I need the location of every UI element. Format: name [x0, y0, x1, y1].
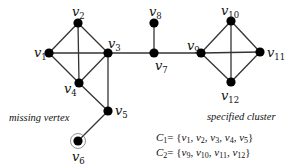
node-v12 [226, 77, 235, 86]
label-v8: v8 [149, 4, 162, 21]
label-v9: v9 [187, 38, 200, 55]
edge-v3-v4 [79, 53, 108, 83]
missing-vertex-annotation: missing vertex [9, 112, 70, 123]
label-v10: v10 [221, 3, 239, 20]
node-v7 [149, 48, 158, 57]
cluster-C1-definition: C1= {v1, v2, v3, v4, v5} [156, 131, 253, 145]
edge-v2-v4 [78, 23, 79, 83]
cluster-C2-definition: C2= {v9, v10, v11, v12} [156, 146, 251, 160]
specified-cluster-annotation: specified cluster [207, 111, 276, 122]
cluster-definitions: C1= {v1, v2, v3, v4, v5}C2= {v9, v10, v1… [156, 131, 253, 160]
edge-v10-v11 [231, 21, 260, 52]
edge-v9-v12 [201, 53, 231, 82]
edge-v1-v2 [49, 23, 78, 53]
edge-v9-v10 [201, 21, 231, 53]
label-v6: v6 [72, 149, 85, 164]
label-v3: v3 [108, 36, 121, 53]
graph-diagram: v1v2v3v4v5v6v7v8v9v10v11v12 missing vert… [0, 0, 296, 164]
label-v2: v2 [72, 4, 85, 21]
node-v4 [74, 78, 83, 87]
label-v1: v1 [34, 45, 47, 62]
label-v5: v5 [115, 103, 128, 120]
label-v12: v12 [221, 88, 239, 105]
node-v11 [255, 47, 264, 56]
node-v5 [103, 106, 112, 115]
edge-v1-v4 [49, 53, 79, 83]
edge-v4-v5 [79, 83, 108, 111]
edge-v2-v3 [78, 23, 108, 53]
label-v7: v7 [155, 58, 168, 75]
edge-v11-v12 [231, 52, 260, 82]
node-v6 [73, 136, 82, 145]
label-v11: v11 [267, 45, 285, 62]
edge-v5-v6 [78, 111, 108, 141]
